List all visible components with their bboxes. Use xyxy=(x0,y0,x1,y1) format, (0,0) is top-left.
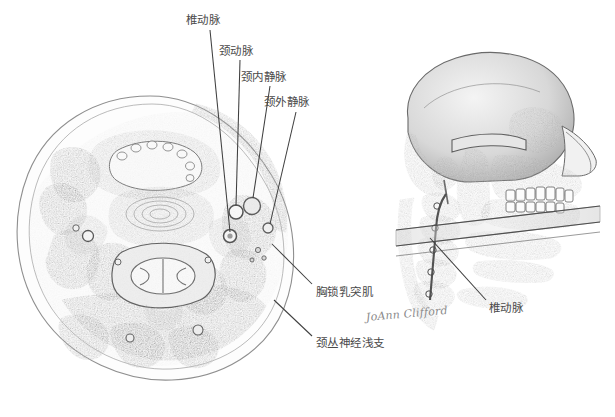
label-internal-jugular-vein: 颈内静脉 xyxy=(241,71,287,84)
label-carotid-artery: 颈动脉 xyxy=(219,45,253,58)
label-vertebral-artery-bottom: 椎动脉 xyxy=(489,302,523,315)
illustration-page: 椎动脉 颈动脉 颈内静脉 颈外静脉 胸锁乳突肌 颈丛神经浅支 椎动脉 JoAnn… xyxy=(0,0,615,417)
thyroid-cartilage xyxy=(473,260,553,282)
anatomy-illustration xyxy=(0,0,615,417)
label-sternocleidomastoid: 胸锁乳突肌 xyxy=(316,286,373,299)
neck-cross-section-panel xyxy=(17,96,294,380)
label-vertebral-artery-top: 椎动脉 xyxy=(186,14,220,27)
label-cervical-plexus-superficial: 颈丛神经浅支 xyxy=(316,337,384,350)
label-external-jugular-vein: 颈外静脉 xyxy=(264,96,310,109)
lateral-skull-panel xyxy=(396,52,600,330)
